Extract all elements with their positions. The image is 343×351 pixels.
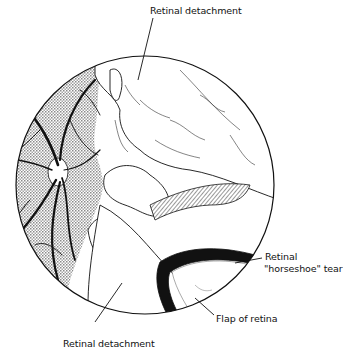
- label-retinal-detachment-bottom: Retinal detachment: [63, 338, 155, 350]
- label-flap-of-retina: Flap of retina: [216, 313, 278, 325]
- label-horseshoe-tear-line1: Retinal: [265, 251, 297, 263]
- label-horseshoe-tear-line2: "horseshoe" tear: [264, 263, 343, 275]
- fundus-view: [0, 40, 280, 330]
- leader-flap: [195, 298, 214, 315]
- label-retinal-detachment-top: Retinal detachment: [150, 5, 242, 17]
